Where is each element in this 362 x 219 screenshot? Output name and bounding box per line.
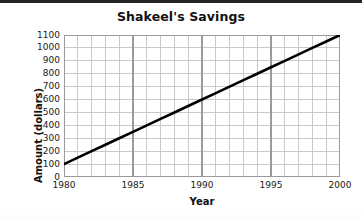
chart-title: Shakeel's Savings: [0, 9, 362, 24]
y-tick-label: 800: [30, 69, 60, 78]
y-tick-label: 600: [30, 95, 60, 104]
x-axis-title: Year: [64, 196, 340, 207]
y-tick-label: 700: [30, 82, 60, 91]
x-tick-label: 1995: [260, 180, 283, 190]
top-border-rule: [0, 0, 362, 3]
y-tick-label: 200: [30, 147, 60, 156]
plot-area: [64, 35, 340, 177]
y-tick-label: 400: [30, 121, 60, 130]
x-axis-tick-labels: 19801985199019952000: [64, 180, 340, 194]
y-tick-label: 1000: [30, 43, 60, 52]
x-tick-label: 1980: [53, 180, 76, 190]
y-tick-label: 100: [30, 160, 60, 169]
data-series-line: [64, 35, 340, 177]
x-tick-label: 1985: [122, 180, 145, 190]
bottom-margin: [0, 208, 362, 219]
x-tick-label: 1990: [191, 180, 214, 190]
chart-figure: Shakeel's Savings Amount (dollars) 11001…: [0, 0, 362, 219]
y-tick-label: 300: [30, 134, 60, 143]
x-tick-label: 2000: [329, 180, 352, 190]
y-tick-label: 500: [30, 108, 60, 117]
y-tick-label: 900: [30, 56, 60, 65]
y-axis-tick-labels: 110010009008007006005004003002001000: [28, 35, 60, 177]
y-tick-label: 1100: [30, 31, 60, 40]
